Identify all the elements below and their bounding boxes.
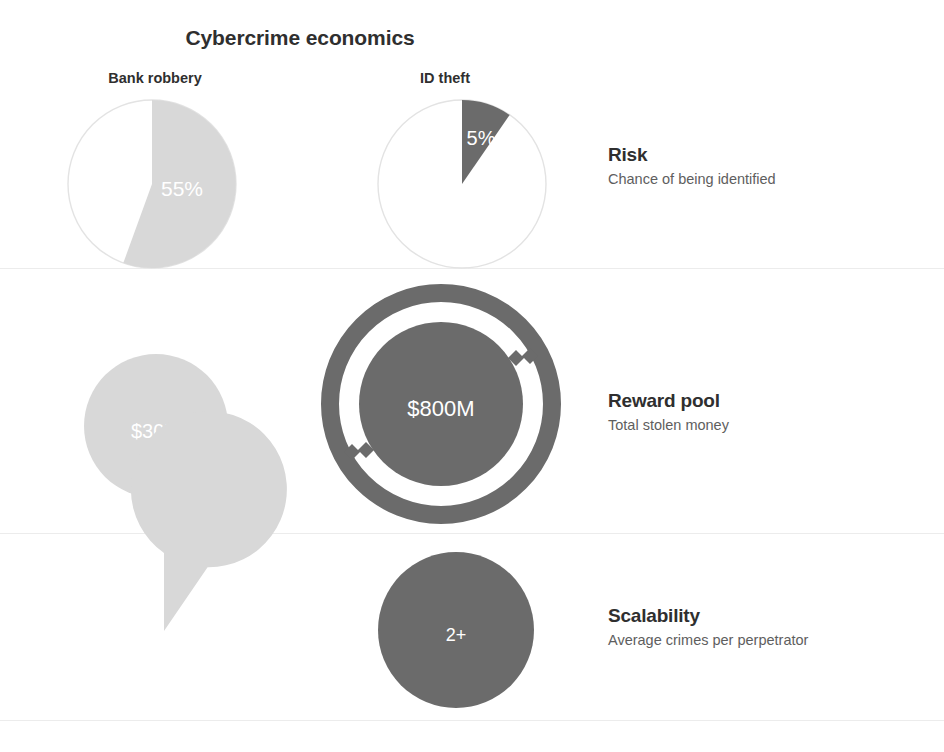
row-subtitle: Total stolen money (608, 416, 938, 435)
row-label-scalability: Scalability Average crimes per perpetrat… (608, 605, 938, 650)
chart-risk-bank-robbery: 55% (66, 98, 238, 270)
row-subtitle: Chance of being identified (608, 170, 938, 189)
chart-scalability-id-theft: 2+ (377, 551, 535, 709)
row-divider-2 (0, 533, 944, 534)
row-title: Risk (608, 144, 938, 166)
pie-value-label: 0.83 (131, 627, 170, 649)
column-header-bank-robbery: Bank robbery (35, 70, 275, 86)
donut-value-label: $800M (407, 396, 474, 421)
infographic-canvas: Cybercrime economics Bank robbery ID the… (0, 0, 944, 752)
page-title: Cybercrime economics (0, 26, 600, 50)
column-header-id-theft: ID theft (325, 70, 565, 86)
chart-reward-id-theft: $800M (318, 281, 564, 527)
chart-risk-id-theft: 5% (376, 98, 548, 270)
row-title: Scalability (608, 605, 938, 627)
pie-value-label: 5% (467, 127, 496, 149)
pie-value-label: 2+ (446, 625, 467, 645)
row-title: Reward pool (608, 390, 938, 412)
row-divider-3 (0, 720, 944, 721)
pie-value-label: 55% (161, 177, 203, 200)
row-label-risk: Risk Chance of being identified (608, 144, 938, 189)
row-subtitle: Average crimes per perpetrator (608, 631, 938, 650)
row-label-reward-pool: Reward pool Total stolen money (608, 390, 938, 435)
chart-scalability-bank-robbery: 0.83 (84, 551, 244, 711)
pie-slice-value (131, 411, 287, 631)
